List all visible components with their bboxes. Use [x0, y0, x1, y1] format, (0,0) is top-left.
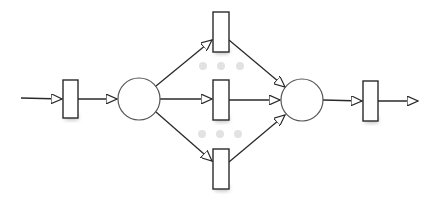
ghost-dot	[234, 130, 242, 138]
place-p2	[281, 79, 323, 121]
ghost-dot	[199, 62, 207, 70]
ghost-dot	[216, 130, 224, 138]
transition-t-top	[213, 12, 229, 52]
petri-net-diagram	[0, 0, 437, 206]
transition-t-mid	[213, 80, 229, 120]
transition-t-bot	[213, 149, 229, 189]
ghost-dot	[217, 62, 225, 70]
transition-t-out	[363, 81, 378, 121]
arc-source-tin	[21, 98, 62, 99]
ghost-dot	[198, 130, 206, 138]
ghost-dot	[236, 62, 244, 70]
arc-tbot-p2	[229, 115, 285, 162]
arc-p2-tout	[323, 100, 362, 101]
transition-t-in	[63, 80, 78, 118]
place-p1	[118, 78, 160, 120]
